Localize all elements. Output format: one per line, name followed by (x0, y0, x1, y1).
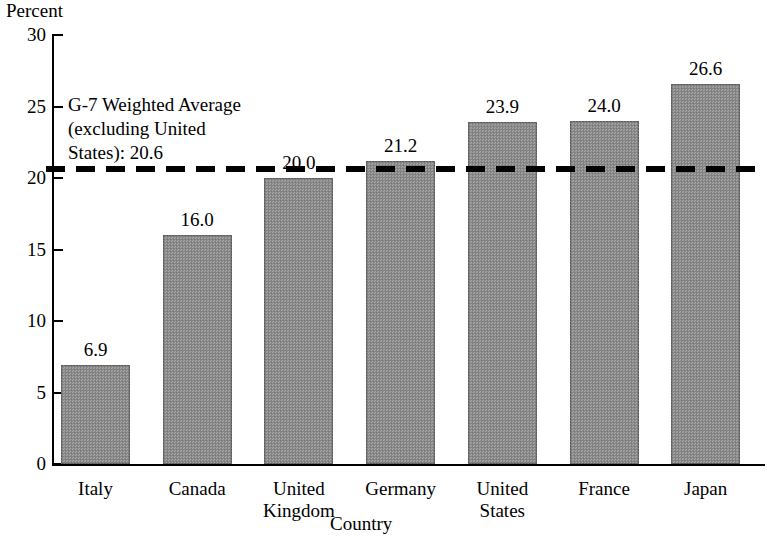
x-category-label: France (548, 478, 661, 500)
x-category-label: Canada (141, 478, 254, 500)
x-category-label-line: Canada (141, 478, 254, 500)
g7-average-annotation: G-7 Weighted Average(excluding UnitedSta… (68, 93, 283, 165)
g7-average-annotation-line: G-7 Weighted Average (68, 93, 283, 117)
y-axis-title: Percent (6, 0, 63, 22)
bar (671, 84, 740, 464)
bar-chart: Percent Country 051015202530 6.9Italy16.… (0, 0, 767, 545)
x-category-label: UnitedStates (446, 478, 559, 522)
bar-value-label: 21.2 (350, 136, 451, 155)
g7-average-annotation-line: (excluding United (68, 117, 283, 141)
y-tick-mark (54, 320, 63, 322)
bar-value-label: 26.6 (655, 59, 756, 78)
bar-value-label: 16.0 (147, 210, 248, 229)
y-tick-label: 10 (0, 311, 46, 330)
x-category-label-line: Japan (649, 478, 762, 500)
y-tick-label: 0 (0, 454, 46, 473)
bar (366, 161, 435, 464)
y-tick-label: 5 (0, 383, 46, 402)
bar (61, 365, 130, 464)
g7-average-reference-line (46, 166, 758, 172)
y-tick-label: 15 (0, 240, 46, 259)
x-axis-line (52, 464, 765, 466)
x-category-label-line: States (446, 500, 559, 522)
y-tick-mark (54, 249, 63, 251)
x-category-label-line: France (548, 478, 661, 500)
y-tick-mark (54, 34, 63, 36)
y-tick-label: 30 (0, 25, 46, 44)
y-tick-mark (54, 106, 63, 108)
x-category-label-line: Germany (344, 478, 457, 500)
y-tick-mark (54, 177, 63, 179)
bar (264, 178, 333, 464)
bar-value-label: 24.0 (554, 96, 655, 115)
g7-average-annotation-line: States): 20.6 (68, 141, 283, 165)
bar-value-label: 6.9 (45, 340, 146, 359)
x-category-label: UnitedKingdom (242, 478, 355, 522)
bar-value-label: 23.9 (452, 97, 553, 116)
bar (468, 122, 537, 464)
x-category-label-line: United (446, 478, 559, 500)
bar (163, 235, 232, 464)
x-category-label-line: Italy (39, 478, 152, 500)
y-tick-label: 20 (0, 168, 46, 187)
x-category-label: Germany (344, 478, 457, 500)
x-category-label: Japan (649, 478, 762, 500)
x-category-label-line: United (242, 478, 355, 500)
x-category-label: Italy (39, 478, 152, 500)
x-category-label-line: Kingdom (242, 500, 355, 522)
y-tick-label: 25 (0, 97, 46, 116)
